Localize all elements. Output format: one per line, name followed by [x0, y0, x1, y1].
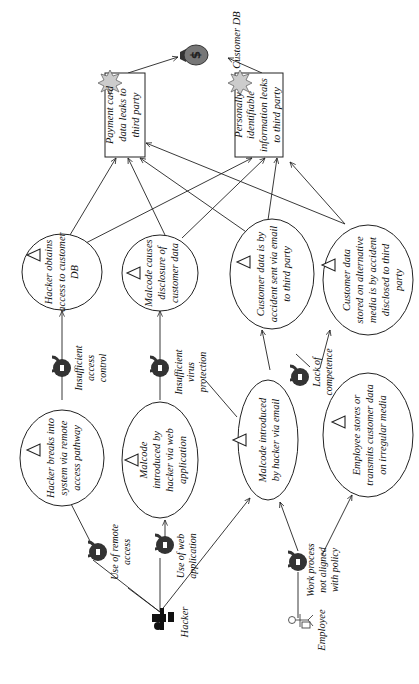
- svg-text:Malcode causes: Malcode causes: [143, 239, 154, 307]
- scenario-hacker-breaks-into-system[interactable]: Hacker breaks into system via remote acc…: [20, 410, 104, 506]
- incident-payment-card[interactable]: Payment card data leaks to third party: [98, 70, 145, 157]
- svg-text:Insufficient: Insufficient: [73, 345, 84, 391]
- svg-text:DB: DB: [69, 264, 80, 280]
- scenario-malcode-causes-disclosure[interactable]: Malcode causes disclosure of customer da…: [122, 235, 198, 311]
- svg-text:Work process: Work process: [305, 543, 316, 597]
- svg-text:protection: protection: [197, 352, 208, 394]
- vuln-text: Lack of competence: [311, 348, 334, 396]
- svg-text:media is by accident: media is by accident: [367, 236, 378, 323]
- svg-text:disclosure of: disclosure of: [156, 244, 167, 300]
- svg-text:information leaks: information leaks: [258, 78, 269, 152]
- scenario-malcode-via-email[interactable]: Malcode introduced by hacker via email: [233, 380, 298, 500]
- money-bag-icon: $: [180, 45, 208, 65]
- asset-label: Customer DB: [231, 11, 242, 69]
- svg-text:with policy: with policy: [329, 547, 340, 592]
- vuln-text: Use of web application: [175, 533, 198, 579]
- scenario-hacker-obtains-access[interactable]: Hacker obtains access to customer DB: [22, 231, 102, 311]
- vuln-insufficient-access-control[interactable]: Insufficient access control: [52, 345, 108, 391]
- svg-text:Lack of: Lack of: [311, 356, 322, 388]
- svg-text:by hacker via email: by hacker via email: [270, 399, 281, 482]
- svg-text:competence: competence: [323, 348, 334, 396]
- vuln-work-process-not-aligned[interactable]: Work process not aligned with policy: [288, 543, 340, 597]
- svg-text:hacker via web: hacker via web: [164, 428, 175, 492]
- padlock-icon: [150, 357, 169, 377]
- svg-text:data leaks to: data leaks to: [117, 88, 128, 142]
- svg-text:control: control: [97, 354, 108, 383]
- svg-text:to third party: to third party: [271, 87, 282, 143]
- svg-text:virus: virus: [185, 362, 196, 382]
- asset-customer-db[interactable]: $ Customer DB: [180, 11, 242, 69]
- svg-text:customer data: customer data: [169, 243, 180, 303]
- svg-text:Use of remote: Use of remote: [109, 524, 120, 580]
- svg-text:identifiable: identifiable: [245, 91, 256, 139]
- padlock-icon: [88, 542, 107, 561]
- svg-text:Customer data is by: Customer data is by: [255, 232, 266, 317]
- svg-text:transmits customer data: transmits customer data: [364, 384, 375, 486]
- hacker-icon: [152, 608, 174, 630]
- svg-text:introduced by: introduced by: [151, 431, 162, 489]
- scenario-data-sent-via-email[interactable]: Customer data is by accident sent via em…: [230, 219, 314, 329]
- svg-text:to third party: to third party: [281, 246, 292, 302]
- hacker-label: Hacker: [179, 606, 190, 639]
- padlock-icon: [290, 366, 309, 386]
- scenario-text: Hacker breaks into system via remote acc…: [45, 418, 82, 499]
- scenario-malcode-via-web-app[interactable]: Malcode introduced by hacker via web app…: [122, 402, 198, 518]
- vuln-use-of-remote-access[interactable]: Use of remote access: [88, 524, 132, 580]
- scenario-text: Malcode causes disclosure of customer da…: [143, 239, 180, 307]
- employee-icon: [289, 614, 314, 628]
- incident-payment-text: Payment card data leaks to third party: [104, 85, 141, 145]
- svg-text:Hacker breaks into: Hacker breaks into: [45, 418, 56, 499]
- svg-text:Insufficient: Insufficient: [173, 349, 184, 395]
- svg-text:Hacker obtains: Hacker obtains: [43, 240, 54, 305]
- svg-text:Employee stores or: Employee stores or: [351, 394, 362, 477]
- svg-text:Payment card: Payment card: [104, 85, 115, 145]
- incident-pii[interactable]: Personally identifiable information leak…: [228, 70, 283, 157]
- scenario-text: Employee stores or transmits customer da…: [351, 384, 388, 486]
- svg-text:application: application: [187, 533, 198, 579]
- svg-text:access to customer: access to customer: [56, 231, 67, 311]
- risk-diagram: $ Customer DB Payment card data leaks to…: [0, 0, 419, 684]
- vuln-text: Use of remote access: [109, 524, 132, 580]
- svg-text:Malcode: Malcode: [138, 441, 149, 479]
- threat-employee[interactable]: Employee: [289, 609, 328, 652]
- vuln-text: Work process not aligned with policy: [305, 543, 340, 597]
- svg-text:third party: third party: [130, 92, 141, 137]
- svg-text:Customer data: Customer data: [341, 249, 352, 311]
- svg-text:application: application: [177, 436, 188, 484]
- svg-text:party: party: [393, 269, 404, 293]
- svg-text:stored on alternative: stored on alternative: [354, 236, 365, 323]
- vuln-insufficient-virus-protection[interactable]: Insufficient virus protection: [150, 349, 208, 395]
- svg-text:Use of web: Use of web: [175, 534, 186, 578]
- svg-text:not aligned: not aligned: [317, 546, 328, 592]
- svg-text:disclosed to third: disclosed to third: [380, 243, 391, 316]
- padlock-icon: [52, 357, 71, 377]
- svg-text:Personally: Personally: [233, 92, 244, 139]
- padlock-icon: [155, 535, 174, 554]
- svg-text:access pathway: access pathway: [71, 425, 82, 491]
- svg-text:$: $: [189, 51, 203, 59]
- svg-text:on irregular media: on irregular media: [377, 395, 388, 475]
- svg-text:system via remote: system via remote: [58, 420, 69, 495]
- vuln-text: Insufficient access control: [73, 345, 108, 391]
- employee-label: Employee: [316, 609, 327, 652]
- scenario-data-on-alternative-media[interactable]: Customer data stored on alternative medi…: [322, 225, 413, 335]
- scenario-employee-stores-data[interactable]: Employee stores or transmits customer da…: [323, 373, 413, 497]
- svg-text:access: access: [85, 355, 96, 381]
- vuln-text: Insufficient virus protection: [173, 349, 208, 395]
- svg-text:accident sent via email: accident sent via email: [268, 226, 279, 323]
- vuln-use-of-web-application[interactable]: Use of web application: [155, 533, 198, 579]
- svg-text:Malcode introduced: Malcode introduced: [257, 397, 268, 483]
- svg-text:access: access: [121, 539, 132, 565]
